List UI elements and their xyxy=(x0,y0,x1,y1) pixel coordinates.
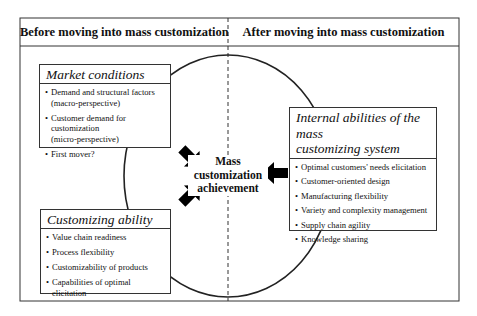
list-item: Variety and complexity management xyxy=(295,205,431,216)
market-conditions-box: Market conditions Demand and structural … xyxy=(39,64,171,148)
market-conditions-list: Demand and structural factors (macro-per… xyxy=(40,84,170,166)
list-item: Manufacturing flexibility xyxy=(295,191,431,202)
list-item: Demand and structural factors (macro-per… xyxy=(45,87,165,108)
list-item: Capabilities of optimal elicitation xyxy=(46,277,165,298)
list-item: Customer-oriented design xyxy=(295,176,431,187)
header-after: After moving into mass customization xyxy=(228,19,459,46)
list-item: Knowledge sharing xyxy=(295,234,431,245)
list-item: Customer demand for customization (micro… xyxy=(45,113,165,145)
list-item: Optimal customers' needs elicitation xyxy=(295,162,431,173)
mass-customization-achievement-label: Mass customization achievement xyxy=(188,155,268,196)
list-item: Process flexibility xyxy=(46,247,165,258)
list-item: First mover? xyxy=(45,149,165,160)
customizing-ability-title: Customizing ability xyxy=(41,210,170,229)
customizing-ability-list: Value chain readiness Process flexibilit… xyxy=(41,229,170,305)
internal-abilities-title: Internal abilities of the mass customizi… xyxy=(290,108,436,159)
market-conditions-title: Market conditions xyxy=(40,65,170,84)
header-before: Before moving into mass customization xyxy=(20,19,228,46)
list-item: Supply chain agility xyxy=(295,220,431,231)
diagram-canvas: Before moving into mass customization Af… xyxy=(0,0,477,316)
customizing-ability-box: Customizing ability Value chain readines… xyxy=(40,209,171,294)
list-item: Value chain readiness xyxy=(46,232,165,243)
internal-abilities-list: Optimal customers' needs elicitation Cus… xyxy=(290,159,436,247)
list-item: Customizability of products xyxy=(46,262,165,273)
internal-abilities-box: Internal abilities of the mass customizi… xyxy=(289,107,437,231)
